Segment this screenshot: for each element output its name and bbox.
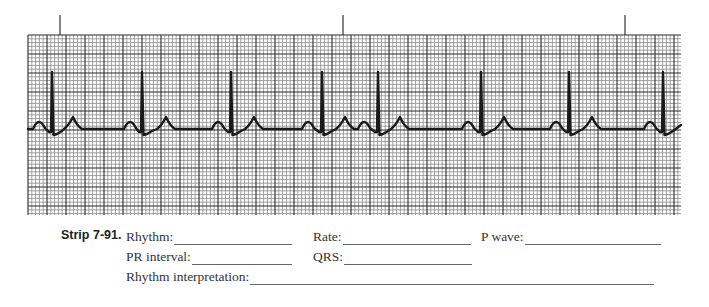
rate-input[interactable]	[343, 232, 471, 245]
rhythm-interpretation-label: Rhythm interpretation:	[126, 269, 249, 285]
p-wave-input[interactable]	[525, 232, 661, 245]
rhythm-interpretation-field[interactable]: Rhythm interpretation:	[126, 269, 654, 285]
qrs-field[interactable]: QRS:	[313, 249, 472, 265]
rhythm-interpretation-input[interactable]	[250, 272, 654, 285]
ecg-chart	[0, 0, 709, 222]
p-wave-field[interactable]: P wave:	[481, 229, 661, 245]
rate-label: Rate:	[313, 229, 342, 245]
p-wave-label: P wave:	[481, 229, 524, 245]
rhythm-field[interactable]: Rhythm:	[126, 229, 292, 245]
rate-field[interactable]: Rate:	[313, 229, 471, 245]
time-markers	[60, 15, 625, 35]
pr-interval-field[interactable]: PR interval:	[126, 249, 292, 265]
rhythm-label: Rhythm:	[126, 229, 173, 245]
pr-interval-input[interactable]	[192, 252, 292, 265]
worksheet: Strip 7-91. Rhythm: Rate: P wave: PR int…	[0, 222, 709, 307]
qrs-label: QRS:	[313, 249, 343, 265]
pr-interval-label: PR interval:	[126, 249, 191, 265]
ecg-rhythm-strip	[0, 0, 709, 222]
qrs-input[interactable]	[344, 252, 472, 265]
strip-label: Strip 7-91.	[61, 228, 121, 242]
rhythm-input[interactable]	[174, 232, 292, 245]
